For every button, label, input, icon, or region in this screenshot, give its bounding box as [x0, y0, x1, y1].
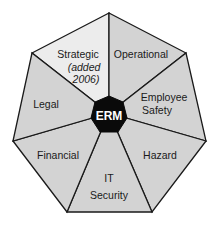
label-legal: Legal: [33, 98, 59, 110]
label-it: IT: [104, 172, 114, 184]
label-employee: Employee: [141, 91, 188, 103]
label-operational: Operational: [114, 48, 168, 60]
label-strategic-year: 2006): [72, 73, 100, 85]
label-financial: Financial: [37, 149, 79, 161]
label-security: Security: [90, 189, 129, 201]
label-strategic: Strategic: [57, 48, 98, 60]
label-hazard: Hazard: [143, 149, 177, 161]
label-strategic-added: (added: [68, 61, 102, 73]
center-label: ERM: [96, 109, 123, 123]
label-safety: Safety: [142, 104, 173, 116]
erm-heptagon-diagram: ERM Strategic (added 2006) Operational E…: [0, 0, 216, 229]
